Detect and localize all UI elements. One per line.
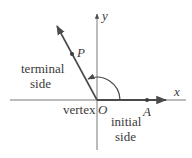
terminal-side-label-line1: terminal <box>21 61 65 76</box>
terminal-side-label-line2: side <box>30 76 51 91</box>
angle-diagram: y x P A O terminal side vertex initial s… <box>0 0 192 158</box>
vertex-label: vertex <box>63 102 96 117</box>
point-a-dot <box>145 98 149 102</box>
point-p-label: P <box>76 45 85 60</box>
initial-side-label-line2: side <box>115 129 136 144</box>
point-a-label: A <box>142 104 151 119</box>
initial-side-label-line1: initial <box>111 114 142 129</box>
origin-label: O <box>98 102 108 117</box>
point-p-dot <box>70 52 74 56</box>
angle-arc <box>88 77 120 100</box>
y-axis-label: y <box>100 8 108 23</box>
x-axis-label: x <box>173 84 180 99</box>
